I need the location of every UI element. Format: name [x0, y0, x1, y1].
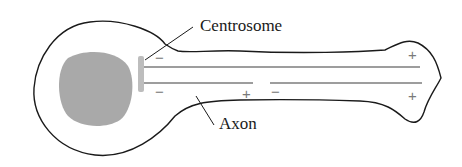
minus-sign-bottom-left: −: [155, 84, 164, 99]
minus-sign-bottom-mid: −: [271, 84, 280, 99]
plus-sign-top-right: +: [408, 47, 417, 62]
nucleus: [59, 52, 132, 126]
centrosome: [138, 56, 144, 92]
centrosome-label: Centrosome: [200, 17, 282, 34]
plus-sign-bottom-mid: +: [242, 86, 251, 101]
axon-label: Axon: [219, 115, 257, 132]
minus-sign-top-left: −: [155, 50, 164, 65]
plus-sign-bottom-right: +: [408, 88, 417, 103]
axon-leader-line: [196, 96, 214, 125]
centrosome-leader-line: [145, 27, 193, 60]
neuron-diagram: Centrosome Axon − − + − + +: [0, 0, 462, 167]
